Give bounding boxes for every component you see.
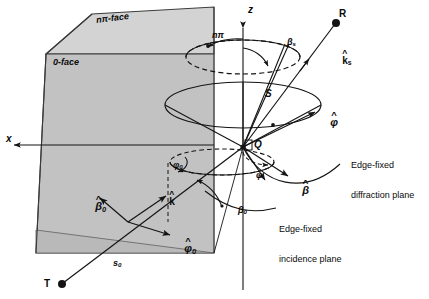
cone-label-S: S	[265, 88, 272, 99]
point-marker-T	[58, 280, 66, 288]
incidence-plane-line1: Edge-fixed	[279, 224, 342, 234]
zero-face-label: 0-face	[53, 57, 79, 67]
figure-canvas: nπ-face 0-face z x R T Q S nπ βs ks φ β …	[0, 0, 429, 299]
diffraction-plane-line2: diffraction plane	[351, 190, 414, 200]
phi-0-angle-label: φ0	[163, 150, 183, 181]
s0-ray-label: s0	[103, 248, 121, 279]
phi-hat-vector-label: φ	[318, 104, 338, 141]
diffraction-plane-line1: Edge-fixed	[351, 160, 414, 170]
ks-direction-arrow	[300, 59, 309, 71]
cone-ray-crossing	[243, 44, 289, 180]
point-label-Q: Q	[254, 139, 262, 150]
beta-0-angle-label: β0	[228, 195, 247, 226]
k-hat-s-vector-label: ks	[331, 44, 351, 78]
x-axis-label: x	[6, 133, 12, 144]
point-label-T: T	[44, 278, 50, 289]
beta-hat-vector	[243, 147, 288, 176]
npi-face-polygon	[46, 7, 214, 54]
z-axis-label: z	[248, 4, 253, 15]
diffraction-plane-callout: Edge-fixed diffraction plane	[351, 140, 414, 221]
beta-s-angle-arc	[243, 48, 268, 66]
point-label-R: R	[339, 8, 346, 19]
beta-s-angle-label: βs	[277, 27, 296, 58]
phi-angle-label: φ	[256, 170, 262, 180]
point-marker-R	[332, 19, 340, 27]
npi-arc-label: nπ	[212, 30, 224, 40]
zero-face-polygon	[36, 54, 214, 253]
incidence-plane-line2: incidence plane	[279, 254, 342, 264]
incidence-plane-callout: Edge-fixed incidence plane	[279, 204, 342, 285]
phi-hat-0-vector-label: φ0	[172, 230, 196, 269]
k-hat-vector-label: k	[158, 185, 175, 219]
beta-hat-0-vector-label: β0	[83, 188, 106, 227]
